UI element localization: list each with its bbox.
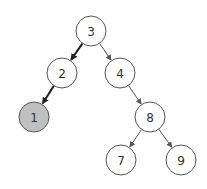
edge-3-to-2 xyxy=(71,43,82,59)
edge-4-to-8 xyxy=(128,85,141,103)
edge-3-to-4 xyxy=(100,43,111,59)
edge-8-to-9 xyxy=(159,129,172,147)
edge-2-to-1 xyxy=(43,86,54,104)
node-label: 3 xyxy=(87,25,95,39)
tree-node-4: 4 xyxy=(105,58,135,88)
tree-node-2: 2 xyxy=(47,58,77,88)
node-label: 7 xyxy=(117,154,125,168)
tree-node-8: 8 xyxy=(135,102,165,132)
node-label: 9 xyxy=(177,154,185,168)
node-label: 8 xyxy=(146,111,154,125)
tree-diagram: 3241879 xyxy=(0,0,207,189)
tree-node-7: 7 xyxy=(106,145,136,175)
nodes-group: 3241879 xyxy=(19,16,196,175)
node-label: 1 xyxy=(30,111,38,125)
edge-8-to-7 xyxy=(130,129,142,146)
tree-node-9: 9 xyxy=(166,145,196,175)
node-label: 4 xyxy=(116,67,124,81)
node-label: 2 xyxy=(58,67,66,81)
tree-node-3: 3 xyxy=(76,16,106,46)
tree-node-1: 1 xyxy=(19,102,49,132)
